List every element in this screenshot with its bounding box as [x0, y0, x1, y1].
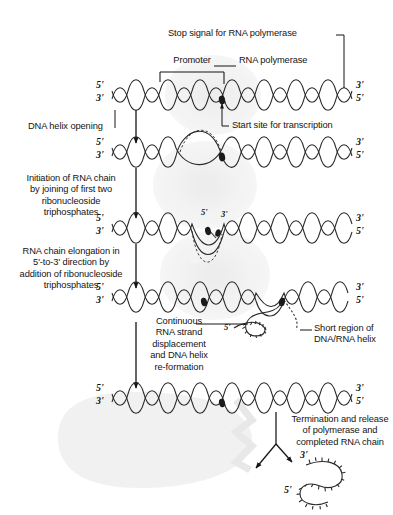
step-label-helix-opening: DNA helix opening [28, 121, 132, 132]
step-label-elongation: RNA chain elongation in 5'-to-3' directi… [10, 246, 132, 292]
strand-3-right-bottom: 5' [356, 225, 364, 236]
strand-5-right-top: 3' [356, 382, 364, 393]
step-label-initiation: Initiation of RNA chain by joining of fi… [12, 173, 130, 219]
strand-3-left-top: 5' [96, 212, 104, 223]
strand-4-rna-5-prime: 5' [224, 322, 231, 332]
strand-4-right-top: 3' [356, 281, 364, 292]
strand-5-right-bottom: 5' [356, 395, 364, 406]
product-3-prime: 3' [300, 449, 308, 460]
callout-start-site: Start site for transcription [232, 120, 382, 131]
callout-termination: Termination and release of polymerase an… [286, 414, 393, 448]
strand-3-rna-5-prime: 5' [201, 207, 208, 217]
callout-rna-polymerase: RNA polymerase [239, 55, 349, 66]
callout-promoter: Promoter [158, 55, 226, 66]
callout-continuous-displacement: Continuous RNA strand displacement and D… [140, 316, 218, 373]
strand-2-right-top: 3' [356, 136, 364, 147]
callout-stop-signal: Stop signal for RNA polymerase [168, 28, 340, 39]
completed-rna-chain [297, 457, 346, 509]
strand-3-left-bottom: 3' [96, 225, 104, 236]
callout-short-region: Short region of DNA/RNA helix [314, 323, 393, 346]
strand-1-left-top: 5' [96, 79, 104, 90]
strand-4-right-bottom: 5' [356, 294, 364, 305]
figure-canvas: Stop signal for RNA polymerase Promoter … [0, 0, 393, 515]
strand-3-right-top: 3' [356, 212, 364, 223]
strand-2-right-bottom: 5' [356, 149, 364, 160]
product-5-prime: 5' [284, 484, 292, 495]
strand-4-left-top: 5' [96, 281, 104, 292]
strand-4-left-bottom: 3' [96, 294, 104, 305]
strand-5-left-bottom: 3' [96, 395, 104, 406]
strand-1-left-bottom: 3' [96, 92, 104, 103]
strand-2-left-bottom: 3' [96, 149, 104, 160]
strand-3-rna-3-prime: 3' [221, 209, 228, 219]
strand-5-left-top: 5' [96, 382, 104, 393]
strand-1-right-bottom: 5' [356, 92, 364, 103]
strand-1-right-top: 3' [356, 79, 364, 90]
strand-2-left-top: 5' [96, 136, 104, 147]
